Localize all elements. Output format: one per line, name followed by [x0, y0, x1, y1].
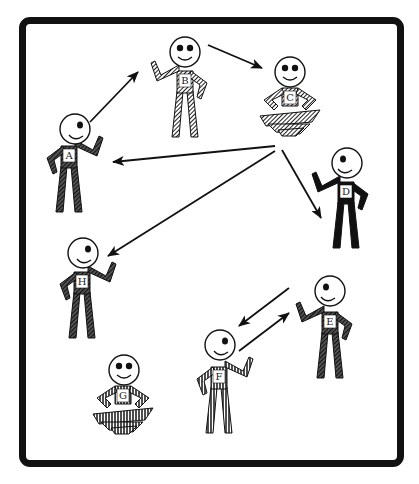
person-h: H: [60, 238, 116, 338]
arrow-c-to-a: [113, 146, 275, 162]
label-d: D: [342, 186, 350, 197]
label-b: B: [181, 75, 188, 86]
arrow-e-to-f: [239, 288, 289, 326]
person-d: D: [312, 148, 368, 248]
diagram-canvas: A B C D: [0, 0, 419, 484]
arrow-c-to-h: [108, 151, 275, 256]
arrow-b-to-c: [208, 45, 262, 68]
diagram-svg: A B C D: [0, 0, 419, 484]
person-a: A: [47, 114, 103, 212]
label-c: C: [286, 92, 294, 103]
label-g: G: [119, 390, 127, 401]
person-f: F: [197, 330, 253, 433]
person-g: G: [93, 355, 153, 434]
label-h: H: [78, 276, 87, 287]
label-e: E: [326, 316, 333, 327]
label-a: A: [64, 150, 73, 161]
person-e: E: [296, 276, 352, 378]
arrow-a-to-b: [90, 72, 138, 122]
label-f: F: [216, 371, 223, 382]
person-b: B: [151, 37, 207, 137]
arrow-f-to-e: [239, 313, 289, 351]
person-c: C: [260, 57, 320, 136]
